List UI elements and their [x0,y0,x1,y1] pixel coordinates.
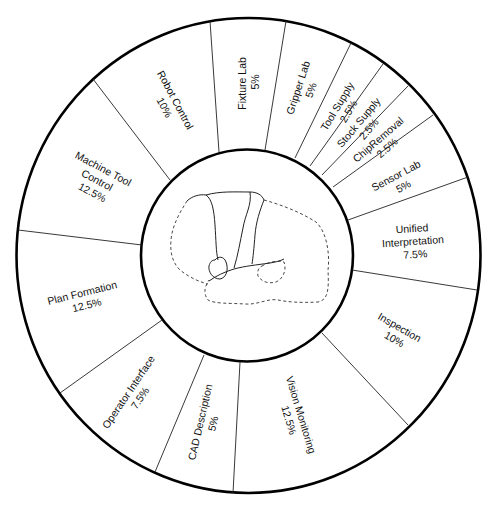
label-machine-tool-control: Machine Tool Control 12.5% [61,149,136,213]
label-gripper-lab: Gripper Lab 5% [284,57,326,120]
divider-fixture-gripper [265,21,286,150]
label-plan-formation: Plan Formation 12.5% [46,277,124,319]
brain-icon [171,192,329,304]
label-inspection: Inspection 10% [370,310,426,357]
inner-ring [141,150,353,362]
divider-vision-cad [233,362,240,493]
divider-plan-machine [18,230,142,245]
label-fixture-lab: Fixture Lab 5% [236,54,261,109]
label-sensor-lab: Sensor Lab 5% [369,156,431,205]
donut-chart: Fixture Lab 5% Gripper Lab 5% Tool Suppl… [0,0,494,507]
divider-robot-fixture [210,21,219,152]
divider-inspection-vision [322,333,408,425]
label-operator-interface: Operator Interface 7.5% [99,351,169,438]
label-cad-description: CAD Description 5% [185,380,227,464]
label-unified-interpretation: Unified Interpretation 7.5% [381,220,448,262]
label-robot-control: Robot Control 10% [144,68,198,140]
divider-unified-inspection [352,270,477,290]
label-vision-monitoring: Vision Monitoring 12.5% [271,375,319,462]
